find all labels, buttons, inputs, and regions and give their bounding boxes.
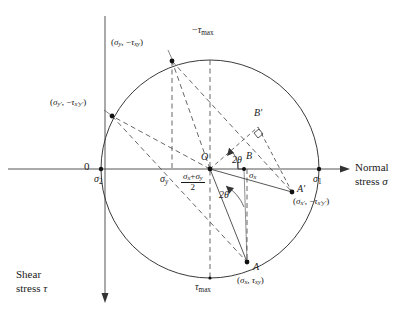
dot-sigma-2 — [99, 167, 103, 171]
angle-lower-label: 2θ — [219, 190, 229, 201]
shear-axis-tau: τ — [43, 282, 47, 294]
coord-label-sigma-y: (σy, −τxy) — [111, 38, 143, 48]
shear-axis-line2-text: stress — [16, 282, 43, 294]
dot-point-sigma-y — [170, 59, 175, 64]
tau-max-bottom-sub: max — [199, 286, 211, 294]
circle-center-label: O — [201, 152, 208, 163]
shear-axis-line1: Shear — [16, 268, 47, 282]
sigma-1-label: σ1 — [313, 174, 322, 186]
sigma-y-sub: y — [165, 178, 168, 186]
coord-A-close: ) — [261, 275, 264, 285]
dot-sigma-1 — [317, 167, 321, 171]
dot-center — [208, 167, 213, 172]
coord-syp-comma: , − — [62, 97, 72, 107]
shear-stress-axis — [102, 16, 109, 303]
normal-stress-axis — [8, 166, 350, 173]
dot-point-A — [245, 260, 250, 265]
tau-max-top-sub: max — [201, 29, 213, 37]
coord-syp-t-sub: x′y′ — [75, 100, 84, 107]
point-B-prime-label: B′ — [254, 108, 262, 119]
sigma-2-sub: 2 — [99, 178, 103, 186]
coord-Ap-comma: , − — [305, 196, 315, 206]
shear-axis-line2: stress τ — [16, 282, 47, 296]
normal-axis-sigma: σ — [382, 175, 387, 187]
sigma-1-sub: 1 — [318, 178, 322, 186]
dashed-line-Bprime-to-Aprime — [258, 127, 292, 192]
origin-label: 0 — [84, 161, 90, 173]
normal-axis-line2: stress σ — [355, 175, 389, 189]
radius-center-to-A — [210, 169, 247, 262]
tau-max-bottom-label: τmax — [195, 282, 211, 294]
normal-stress-axis-label: Normal stress σ — [355, 161, 389, 189]
dot-point-B — [242, 167, 246, 171]
sigma-x-label: σx — [249, 171, 256, 181]
sigma-2-label: σ2 — [94, 174, 103, 186]
sigma-x-sub: x — [253, 173, 256, 180]
dot-tau-max-bottom — [208, 276, 211, 279]
formula-sigma-y-sub: y — [200, 174, 203, 181]
coord-syp-close: ) — [83, 97, 86, 107]
tau-max-top-label: −τmax — [192, 25, 214, 37]
coord-label-A: (σx, τxy) — [237, 276, 264, 286]
coord-label-sigma-y-prime: (σy′, −τx′y′) — [50, 98, 86, 108]
coord-sigma-y-close: ) — [140, 37, 143, 47]
mohrs-circle-figure: 0 σ2 σ1 σy σx+σy 2 O 2θ 2θ B B′ σx A A′ … — [0, 0, 415, 316]
angle-upper-label: 2θ — [232, 155, 242, 166]
normal-axis-line2-text: stress — [355, 175, 382, 187]
dot-point-A-prime — [290, 190, 295, 195]
point-A-label: A — [253, 262, 259, 273]
dashed-radius-sigma-y-prime-point — [112, 116, 210, 169]
center-formula-fraction: σx+σy 2 — [181, 172, 205, 193]
shear-stress-axis-label: Shear stress τ — [16, 268, 47, 296]
coord-label-A-prime: (σx′, −τx′y′) — [293, 197, 329, 207]
point-B-label: B — [246, 151, 252, 162]
center-formula-label: σx+σy 2 — [181, 172, 205, 193]
coord-Ap-t-sub: x′y′ — [318, 199, 327, 206]
sigma-y-axis-label: σy — [160, 174, 168, 186]
coord-Ap-close: ) — [326, 196, 329, 206]
leader-sigma-y-label — [168, 50, 172, 59]
coord-sigma-y-comma: , − — [121, 37, 131, 47]
normal-axis-line1: Normal — [355, 161, 389, 175]
point-A-prime-label: A′ — [297, 184, 305, 195]
center-formula-denominator: 2 — [181, 183, 205, 192]
